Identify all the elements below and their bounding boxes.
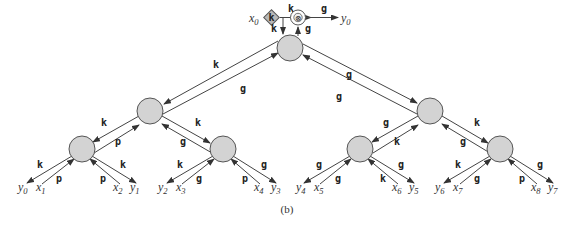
leaf-y0: y0 (17, 180, 28, 196)
svg-text:g: g (346, 69, 352, 80)
leaf-x4: x4 (253, 180, 264, 196)
level1-node-right (417, 98, 443, 124)
svg-text:g: g (261, 159, 267, 170)
leaf-x6: x6 (391, 180, 402, 196)
svg-text:k: k (474, 117, 480, 128)
root-node (277, 35, 303, 61)
svg-text:k: k (455, 159, 461, 170)
leaf-y5: y5 (408, 180, 419, 196)
svg-text:k: k (37, 159, 43, 170)
svg-text:g: g (474, 173, 480, 184)
svg-text:p: p (115, 136, 121, 147)
svg-text:p: p (56, 173, 62, 184)
svg-text:p: p (100, 173, 106, 184)
leaf-y1: y1 (129, 180, 140, 196)
svg-text:g: g (180, 136, 186, 147)
edge-label: g (321, 3, 327, 14)
leaf-y2: y2 (157, 180, 168, 196)
svg-text:g: g (537, 159, 543, 170)
svg-text:k: k (177, 159, 183, 170)
leaf-x2: x2 (112, 180, 123, 196)
level2-node-0 (69, 136, 95, 162)
figure-caption: (b) (281, 203, 294, 216)
level2-node-3 (487, 136, 513, 162)
level2-node-1 (210, 136, 236, 162)
svg-text:p: p (242, 173, 248, 184)
edge-label: k (271, 23, 277, 34)
svg-text:k: k (213, 59, 219, 70)
svg-text:k: k (394, 136, 400, 147)
svg-text:k: k (195, 117, 201, 128)
edge-label: g (305, 23, 311, 34)
input-x0: x0 (248, 11, 259, 27)
output-y0: y0 (340, 11, 351, 27)
svg-text:g: g (398, 159, 404, 170)
top-section: x0 k k ⊗ g y0 k g (248, 3, 351, 36)
svg-text:g: g (383, 117, 389, 128)
svg-text:k: k (120, 159, 126, 170)
svg-text:g: g (460, 136, 466, 147)
svg-text:⊗: ⊗ (295, 14, 302, 23)
leaf-y6: y6 (434, 180, 445, 196)
svg-text:k: k (101, 117, 107, 128)
svg-text:g: g (240, 83, 246, 94)
svg-text:g: g (335, 173, 341, 184)
operator-node: ⊗ (291, 10, 306, 25)
svg-text:p: p (519, 173, 525, 184)
svg-text:g: g (316, 159, 322, 170)
prefix-tree-diagram: x0 k k ⊗ g y0 k g k g g g k (0, 0, 574, 231)
level1-node-left (137, 98, 163, 124)
leaf-y3: y3 (270, 180, 281, 196)
leaf-y7: y7 (547, 180, 558, 196)
svg-text:g: g (196, 173, 202, 184)
level2-node-2 (347, 136, 373, 162)
leaf-x8: x8 (530, 180, 541, 196)
svg-text:k: k (380, 173, 386, 184)
svg-text:g: g (336, 91, 342, 102)
svg-text:k: k (268, 12, 274, 23)
